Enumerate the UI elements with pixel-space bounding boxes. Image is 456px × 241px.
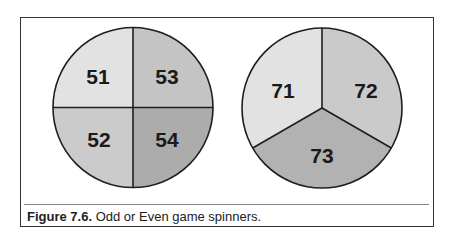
figure-caption-text: Odd or Even game spinners.: [92, 209, 261, 224]
section-label-72: 72: [354, 79, 377, 102]
caption-divider: [24, 204, 429, 205]
section-label-51: 51: [86, 65, 110, 88]
section-label-52: 52: [87, 128, 110, 151]
section-label-53: 53: [155, 65, 178, 88]
spinner-four-sections: 51 53 52 54: [53, 28, 213, 188]
figure-caption: Figure 7.6. Odd or Even game spinners.: [27, 209, 261, 224]
section-label-54: 54: [155, 128, 179, 151]
spinner-three-sections: 71 72 73: [242, 28, 402, 188]
section-label-73: 73: [310, 144, 333, 167]
figure-number: Figure 7.6.: [27, 209, 92, 224]
section-label-71: 71: [271, 79, 295, 102]
